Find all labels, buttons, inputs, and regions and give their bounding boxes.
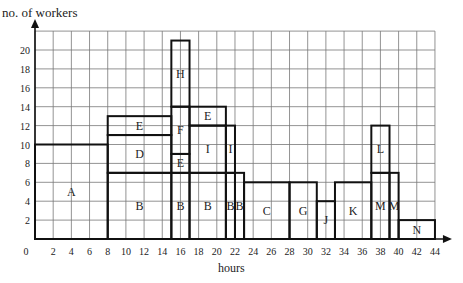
x-tick-label: 12	[139, 246, 149, 257]
y-axis-label: no. of workers	[2, 5, 77, 20]
y-axis-arrow-icon	[31, 19, 39, 28]
x-axis-label: hours	[218, 261, 245, 275]
x-tick-label: 16	[175, 246, 185, 257]
activity-label: B	[176, 199, 184, 213]
activity-label: D	[135, 147, 144, 161]
y-tick-label: 10	[20, 140, 30, 151]
activity-label: I	[228, 142, 232, 156]
x-tick-label: 34	[339, 246, 349, 257]
x-tick-label: 28	[285, 246, 295, 257]
x-tick-label: 26	[266, 246, 276, 257]
x-tick-label: 24	[248, 246, 258, 257]
activity-label: L	[377, 142, 384, 156]
activity-label: C	[263, 204, 271, 218]
resource-histogram-chart: ABBBBBDEEFEIIHCGJKMLMN 02468101214161820…	[0, 0, 463, 283]
activity-label: E	[136, 119, 143, 133]
x-axis-arrow-icon	[443, 235, 452, 243]
activity-N: N	[399, 220, 435, 239]
activity-E: E	[190, 107, 226, 126]
activity-label: I	[206, 142, 210, 156]
activity-label: K	[349, 204, 358, 218]
x-tick-label: 8	[105, 246, 110, 257]
y-tick-label: 16	[20, 83, 30, 94]
activity-label: A	[67, 185, 76, 199]
x-tick-label: 14	[157, 246, 167, 257]
y-tick-label: 8	[25, 158, 30, 169]
activity-label: E	[204, 109, 211, 123]
activity-D: D	[108, 135, 172, 173]
x-tick-label: 44	[430, 246, 440, 257]
x-tick-label: 42	[412, 246, 422, 257]
activity-label: F	[177, 123, 184, 137]
activity-I: I	[190, 126, 226, 173]
y-tick-label: 6	[25, 177, 30, 188]
x-tick-label: 18	[194, 246, 204, 257]
y-tick-label: 14	[20, 102, 30, 113]
activity-label: B	[236, 199, 244, 213]
activity-label: N	[412, 223, 421, 237]
activity-B: B	[235, 173, 244, 239]
x-tick-label: 2	[51, 246, 56, 257]
activity-label: H	[176, 67, 185, 81]
activity-label: J	[324, 213, 329, 227]
y-tick-label: 18	[20, 64, 30, 75]
activity-I: I	[226, 126, 235, 173]
y-tick-label: 4	[25, 196, 30, 207]
x-tick-label: 40	[394, 246, 404, 257]
y-tick-label: 12	[20, 121, 30, 132]
activity-B: B	[226, 173, 235, 239]
x-tick-label: 38	[375, 246, 385, 257]
activity-B: B	[108, 173, 172, 239]
x-tick-label: 20	[212, 246, 222, 257]
activity-C: C	[244, 182, 289, 239]
x-tick-label: 4	[69, 246, 74, 257]
y-tick-label: 20	[20, 45, 30, 56]
x-tick-label: 6	[87, 246, 92, 257]
x-tick-label: 32	[321, 246, 331, 257]
activity-label: B	[204, 199, 212, 213]
x-tick-label: 10	[121, 246, 131, 257]
activity-label: M	[389, 199, 400, 213]
activity-B: B	[190, 173, 226, 239]
activity-label: M	[375, 199, 386, 213]
activity-label: G	[299, 204, 308, 218]
x-tick-label: 22	[230, 246, 240, 257]
x-tick-label: 36	[357, 246, 367, 257]
y-tick-label: 2	[25, 215, 30, 226]
activity-label: B	[226, 199, 234, 213]
activity-G: G	[290, 182, 317, 239]
activity-K: K	[335, 182, 371, 239]
x-tick-label: 0	[24, 246, 29, 257]
activity-label: E	[177, 156, 184, 170]
x-tick-label: 30	[303, 246, 313, 257]
activity-label: B	[136, 199, 144, 213]
